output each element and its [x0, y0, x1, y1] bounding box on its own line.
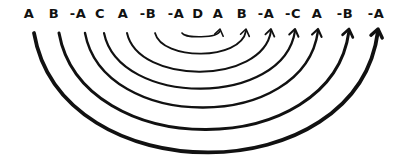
token-label: D	[192, 6, 203, 21]
token-label: A	[312, 6, 323, 21]
token-label: C	[95, 6, 105, 21]
arc-arrow	[85, 29, 322, 108]
arc-arrow	[34, 29, 382, 152]
token-label: -A	[368, 6, 384, 21]
token-label: A	[118, 6, 129, 21]
arcs-layer	[0, 0, 405, 167]
token-label: A	[24, 6, 35, 21]
palindrome-arc-diagram: AB-ACA-B-ADAB-A-CA-B-A	[0, 0, 405, 167]
token-label: B	[49, 6, 59, 21]
token-label: -B	[337, 6, 353, 21]
token-label: -A	[70, 6, 86, 21]
token-label: -C	[285, 6, 301, 21]
token-label: B	[237, 6, 247, 21]
arc-arrow	[127, 29, 274, 72]
token-label: -A	[168, 6, 184, 21]
token-label: -A	[258, 6, 274, 21]
token-label: A	[213, 6, 224, 21]
token-label: -B	[140, 6, 156, 21]
arc-arrow	[182, 29, 223, 37]
arc-arrow	[155, 29, 249, 54]
arc-arrow	[59, 29, 353, 130]
